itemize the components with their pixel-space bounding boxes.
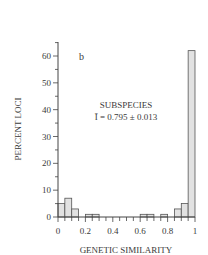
x-tick-label: 1 bbox=[193, 226, 198, 236]
annotation-title: SUBSPECIES bbox=[100, 100, 153, 110]
x-tick-label: 0 bbox=[56, 226, 61, 236]
annotation-mean: Ī = 0.795 ± 0.013 bbox=[95, 112, 158, 122]
y-tick-label: 40 bbox=[42, 105, 52, 115]
x-tick-label: 0.2 bbox=[80, 226, 91, 236]
histogram-bars bbox=[58, 51, 195, 217]
histogram-bar bbox=[181, 204, 188, 217]
x-ticks: 00.20.40.60.81 bbox=[56, 217, 198, 236]
panel-label: b bbox=[79, 51, 84, 62]
x-tick-label: 0.6 bbox=[135, 226, 147, 236]
y-tick-label: 20 bbox=[42, 158, 52, 168]
histogram-bar bbox=[174, 209, 181, 217]
histogram-bar bbox=[188, 51, 195, 217]
histogram-bar bbox=[58, 204, 65, 217]
y-tick-label: 10 bbox=[42, 185, 52, 195]
y-tick-label: 60 bbox=[42, 51, 52, 61]
x-axis-label: GENETIC SIMILARITY bbox=[80, 245, 173, 255]
y-tick-label: 50 bbox=[42, 78, 52, 88]
x-tick-label: 0.8 bbox=[162, 226, 174, 236]
histogram-bar bbox=[65, 198, 72, 217]
x-tick-label: 0.4 bbox=[107, 226, 119, 236]
y-tick-label: 0 bbox=[47, 212, 52, 222]
histogram-chart: 0102030405060 00.20.40.60.81 b SUBSPECIE… bbox=[0, 0, 208, 255]
y-axis-label: PERCENT LOCI bbox=[13, 97, 23, 160]
histogram-bar bbox=[72, 209, 79, 217]
y-tick-label: 30 bbox=[42, 132, 52, 142]
y-ticks: 0102030405060 bbox=[42, 43, 58, 222]
